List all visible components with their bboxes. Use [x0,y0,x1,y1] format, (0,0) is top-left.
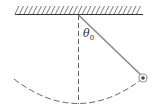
theta-symbol: θ [83,27,90,40]
swing-arc [14,79,142,104]
pendulum-string [79,15,143,76]
pendulum-diagram [0,0,157,108]
angle-label: θ0 [83,27,94,42]
ceiling [15,6,143,15]
pendulum-bob [139,74,147,82]
theta-subscript: 0 [90,34,94,42]
